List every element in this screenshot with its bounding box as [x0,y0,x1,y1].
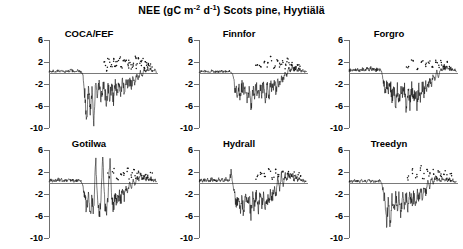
observation-point [147,177,149,179]
panel-forgro: Forgro62-2-6-10 [318,28,460,128]
observation-point [441,64,443,66]
y-axis-tick [44,238,49,239]
observation-point [420,165,422,167]
observation-point [440,173,442,175]
observation-point [438,64,440,66]
observation-point [428,62,430,64]
y-axis-tick-label: -10 [330,238,343,239]
observation-point [426,169,428,171]
panel-gotilwa: Gotilwa62-2-6-10 [18,138,160,238]
observation-point [257,64,259,65]
y-axis-tick-label: 6 [338,40,343,41]
observation-point [260,172,262,174]
observation-point [436,178,438,180]
observation-point [127,65,129,67]
observation-point [151,66,153,68]
y-axis-tick [344,238,349,239]
plot-area: 62-2-6-10 [318,150,460,238]
observation-point [135,64,137,66]
observation-point [438,67,440,69]
observation-point [274,65,276,67]
observation-point [150,63,152,65]
observation-point [105,65,107,67]
observation-point [284,177,286,179]
observation-point [440,175,442,177]
observation-point [298,172,300,174]
observation-point [260,66,262,68]
observation-point [113,172,115,174]
observation-point [279,66,281,68]
observation-point [407,177,409,179]
observation-point [146,62,148,64]
figure-title-main: NEE (gC m [138,4,193,16]
data-series-layer [349,150,458,238]
observation-point [138,57,140,59]
observation-point [282,170,284,172]
observation-point [139,63,141,65]
observation-point [298,68,300,70]
observation-point [446,174,448,176]
observation-point [265,176,267,178]
data-series-layer [49,40,158,128]
observation-point [268,168,270,170]
observation-point [257,175,259,177]
observation-point [120,56,122,58]
observation-point [435,61,437,63]
observation-point [280,64,282,66]
observation-point [135,177,137,179]
model-line [49,157,157,217]
observation-point [136,63,138,65]
observation-point [429,172,431,174]
observation-point [439,171,441,173]
observation-point [288,62,290,64]
observation-point [446,177,448,179]
figure-title-end: ) Scots pine, Hyytiälä [217,4,325,16]
observation-point [443,174,445,176]
y-axis-tick-label: -6 [185,106,193,107]
data-series-layer [349,40,458,128]
observation-point [141,60,143,62]
observation-point [118,60,120,62]
observation-point [434,179,436,181]
observation-point [107,67,109,69]
plot-area: 62-2-6-10 [168,150,310,238]
observation-point [406,66,408,68]
model-line [349,64,457,113]
observation-point [293,175,295,177]
y-axis-tick-label: 2 [188,62,193,63]
observation-point [128,178,130,180]
observation-point [144,175,146,177]
observation-point [108,176,110,178]
observation-point [123,174,125,176]
observation-point [111,66,113,68]
observation-point [299,65,301,67]
y-axis-tick [344,128,349,129]
y-axis-tick-label: 6 [38,150,43,151]
y-axis-tick-label: -10 [180,128,193,129]
observation-point [141,65,143,67]
observation-point [423,173,425,175]
observation-point [437,62,439,64]
figure-title: NEE (gC m-2 d-1) Scots pine, Hyytiälä [0,4,463,16]
observation-point [147,175,149,177]
observation-point [132,67,134,69]
observation-point [411,59,413,61]
observation-point [437,171,439,173]
observation-point [138,172,140,174]
observation-point [107,58,109,60]
observation-point [420,167,422,169]
observation-point [412,173,413,175]
panel-finnfor: Finnfor62-2-6-10 [168,28,310,128]
observation-point [275,172,277,174]
observation-point [446,66,448,68]
y-axis-tick-label: -6 [335,216,343,217]
observation-point [123,173,125,175]
observation-point [261,173,263,175]
panel-hydrall: Hydrall62-2-6-10 [168,138,310,238]
observation-point [106,70,108,72]
panel-treedyn: Treedyn62-2-6-10 [318,138,460,238]
observation-point [444,65,446,67]
observation-point [126,171,128,173]
observation-point [115,61,117,63]
observation-point [113,61,115,63]
